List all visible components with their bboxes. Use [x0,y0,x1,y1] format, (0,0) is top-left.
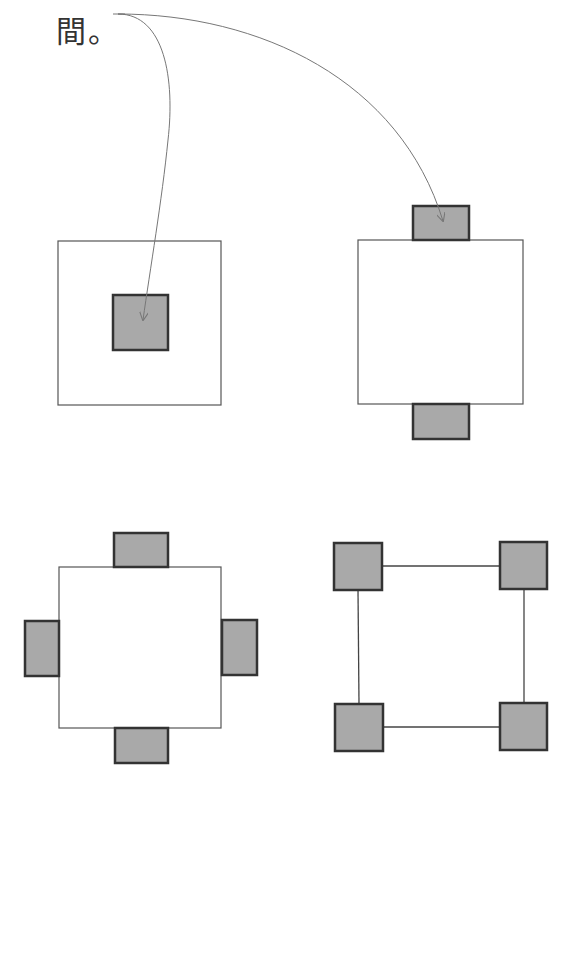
arrow-to-top-tab-icon [118,14,443,221]
gray-block-bottom [413,404,469,439]
diagram-corner-blocks [334,542,547,751]
gray-block-top-right [500,542,547,589]
gray-block-left [25,621,59,676]
gray-block-top-left [334,543,382,590]
outer-square [358,240,523,404]
diagram-center-tab [58,241,221,405]
gray-block-bottom-left [335,704,383,751]
outer-square [59,567,221,728]
gray-block-bottom [115,728,168,763]
gray-block-right [222,620,257,675]
gray-block-bottom-right [500,703,547,750]
connector-left [358,590,359,704]
diagram-top-bottom-tabs [358,206,523,439]
gray-block [113,295,168,350]
diagram-canvas [0,0,585,979]
diagram-four-side-tabs [25,533,257,763]
gray-block-top [413,206,469,240]
gray-block-top [114,533,168,567]
